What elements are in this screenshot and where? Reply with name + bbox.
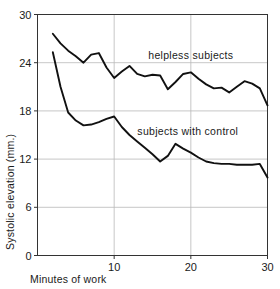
chart-canvas: 0612182430102030 helpless subjectssubjec…: [0, 0, 280, 289]
x-tick-label: 20: [185, 261, 197, 273]
systolic-elevation-line-chart: 0612182430102030 helpless subjectssubjec…: [0, 0, 280, 289]
y-tick-label: 30: [19, 9, 31, 21]
y-tick-label: 18: [19, 105, 31, 117]
y-tick-label: 0: [25, 250, 31, 262]
x-tick-label: 10: [108, 261, 120, 273]
x-tick-label: 30: [261, 261, 273, 273]
y-tick-label: 6: [25, 201, 31, 213]
series-label: subjects with control: [137, 125, 238, 137]
series-label: helpless subjects: [148, 49, 233, 61]
y-tick-label: 24: [19, 57, 31, 69]
y-axis-title: Systolic elevation (mm.): [4, 134, 16, 250]
series-line: [53, 34, 268, 106]
y-tick-label: 12: [19, 153, 31, 165]
x-axis-title: Minutes of work: [30, 273, 107, 285]
axis-tick-labels: 0612182430102030: [19, 9, 273, 273]
